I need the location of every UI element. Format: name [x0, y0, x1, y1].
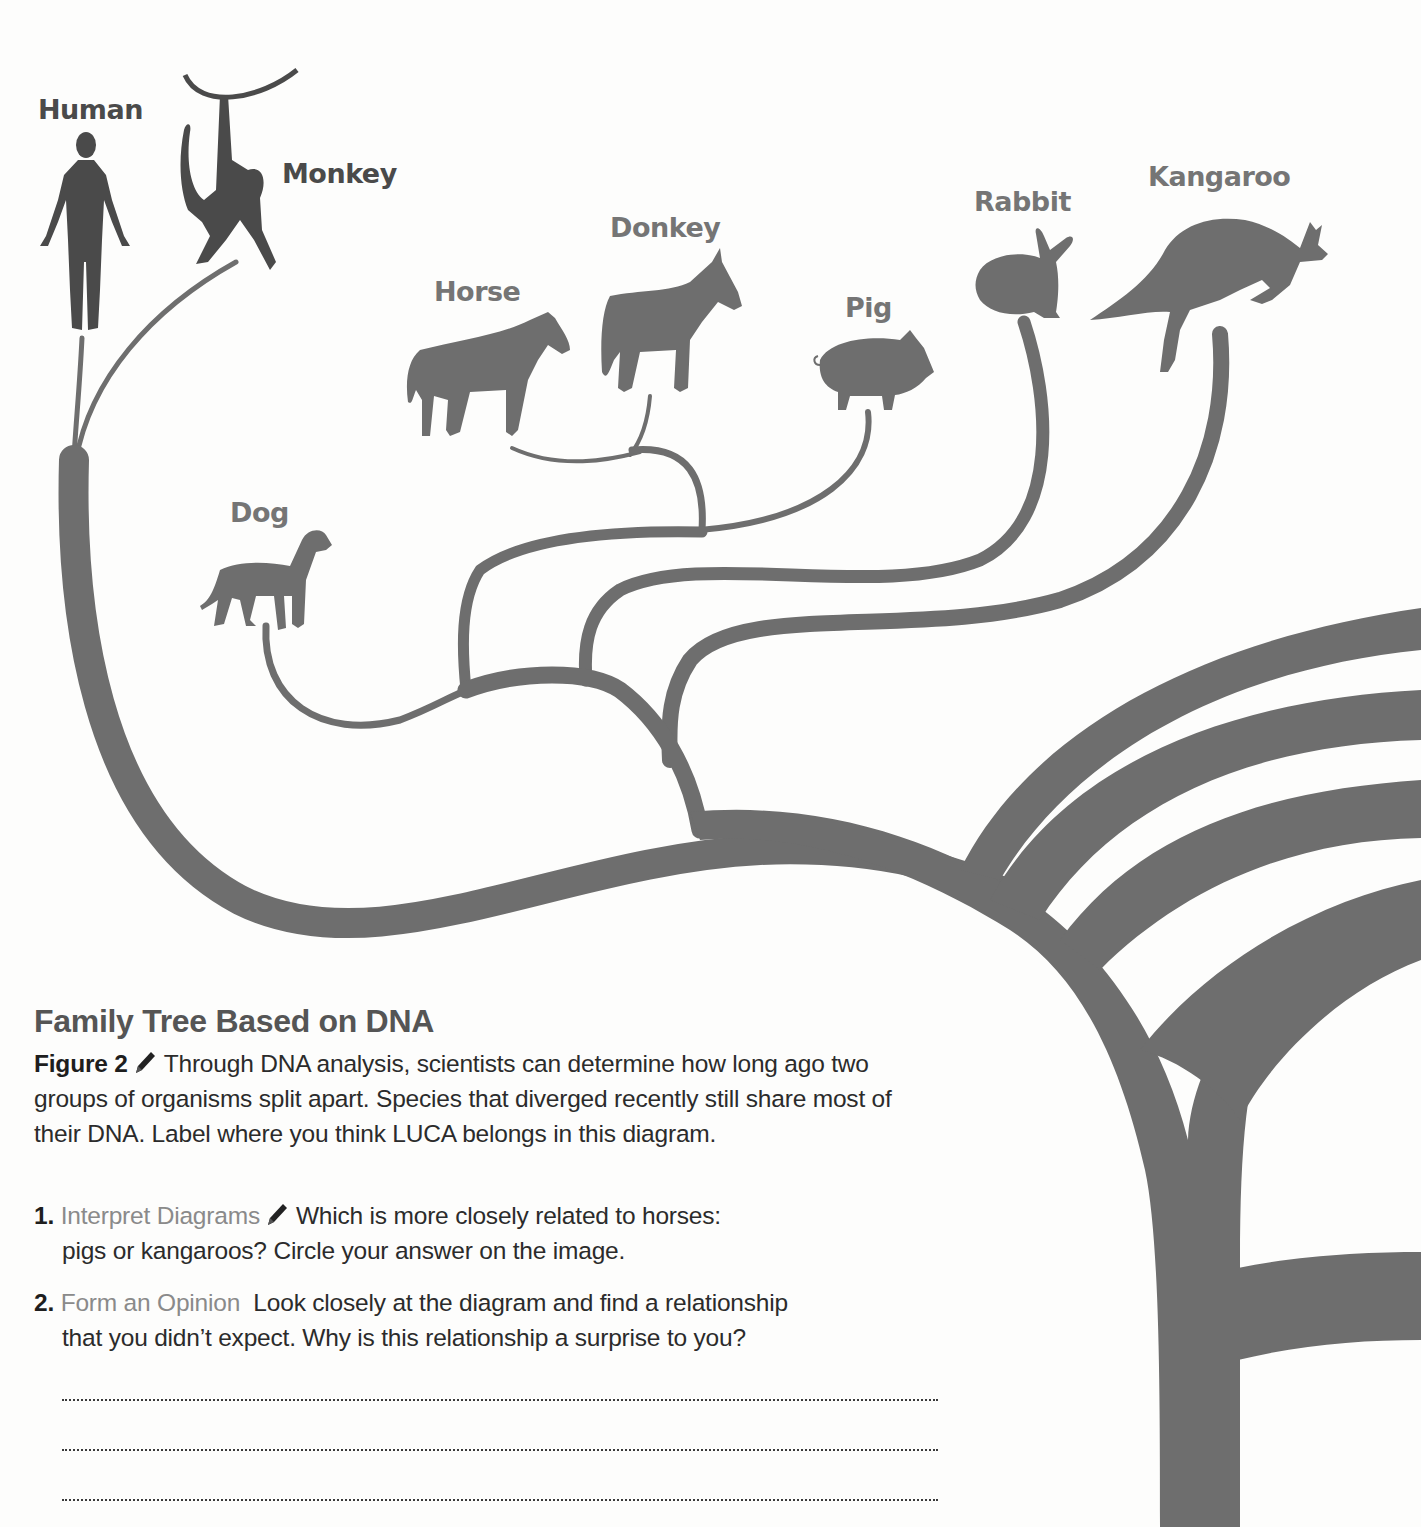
label-donkey: Donkey — [610, 212, 720, 243]
branch-monkey — [76, 262, 236, 460]
question-2-text-line1: Look closely at the diagram and find a r… — [253, 1289, 788, 1316]
question-1-text-line2: pigs or kangaroos? Circle your answer on… — [34, 1233, 934, 1268]
figure-title: Family Tree Based on DNA — [34, 1003, 434, 1040]
answer-line-2[interactable] — [62, 1449, 938, 1451]
band-lower — [1238, 1252, 1421, 1360]
dog-silhouette-icon — [200, 530, 332, 630]
label-monkey: Monkey — [282, 158, 397, 189]
pencil-icon — [264, 1201, 290, 1227]
horse-silhouette-icon — [407, 312, 570, 436]
branch-horse — [512, 448, 640, 461]
branch-horse-donkey-join — [632, 450, 702, 530]
label-dog: Dog — [230, 497, 289, 528]
branch-dog — [266, 626, 480, 725]
question-2-skill: Form an Opinion — [61, 1289, 240, 1316]
branch-pig — [700, 412, 869, 530]
label-horse: Horse — [434, 276, 520, 307]
figure-caption: Figure 2Through DNA analysis, scientists… — [34, 1046, 924, 1151]
question-2: 2. Form an Opinion Look closely at the d… — [34, 1285, 934, 1355]
question-1: 1. Interpret DiagramsWhich is more close… — [34, 1198, 934, 1268]
question-1-skill: Interpret Diagrams — [61, 1202, 260, 1229]
question-2-number: 2. — [34, 1289, 54, 1316]
pencil-icon — [132, 1049, 158, 1075]
label-human: Human — [38, 94, 143, 125]
label-kangaroo: Kangaroo — [1148, 161, 1290, 192]
trunk — [690, 810, 1290, 1527]
label-pig: Pig — [845, 292, 892, 323]
human-silhouette-icon — [40, 132, 130, 330]
branch-placental-join — [466, 675, 700, 830]
question-2-text-line2: that you didn’t expect. Why is this rela… — [34, 1320, 934, 1355]
pig-silhouette-icon — [814, 330, 934, 410]
figure-label: Figure 2 — [34, 1050, 128, 1077]
answer-line-1[interactable] — [62, 1399, 938, 1401]
kangaroo-silhouette-icon — [1090, 219, 1328, 372]
question-1-text-line1: Which is more closely related to horses: — [296, 1202, 721, 1229]
rabbit-silhouette-icon — [976, 228, 1073, 318]
question-1-number: 1. — [34, 1202, 54, 1229]
band-4 — [1140, 880, 1421, 1120]
label-rabbit: Rabbit — [974, 186, 1071, 217]
donkey-silhouette-icon — [601, 248, 742, 392]
monkey-silhouette-icon — [181, 70, 297, 270]
answer-line-3[interactable] — [62, 1499, 938, 1501]
figure-caption-text: Through DNA analysis, scientists can det… — [34, 1050, 892, 1147]
